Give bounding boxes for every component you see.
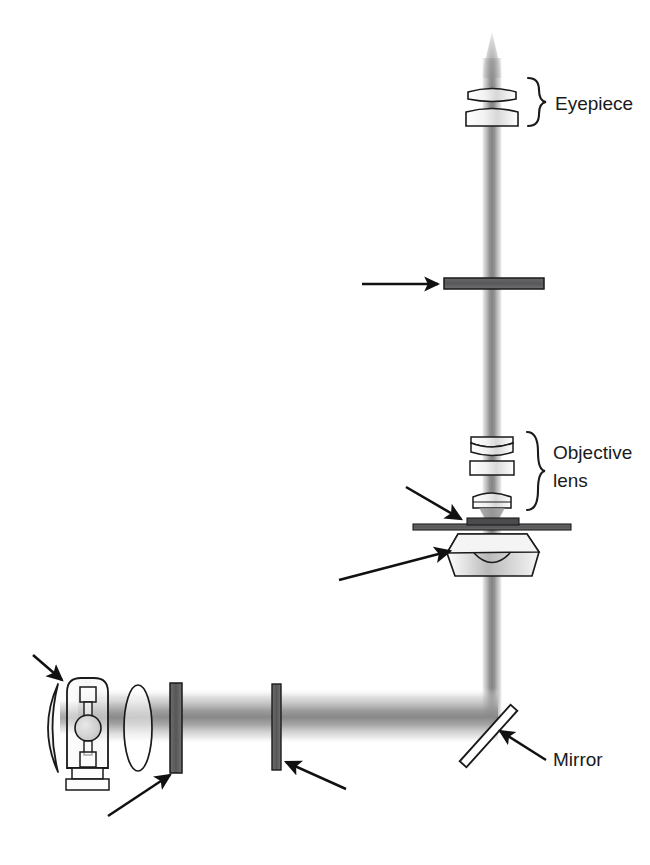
microscope-light-path-diagram: Eyepiece Objective lens (0, 0, 650, 865)
upper-filter (444, 278, 544, 289)
eyepiece-brace (528, 78, 546, 126)
lamp-stem-top (84, 702, 92, 716)
upper-filter-assembly (362, 278, 544, 289)
lamp-base-upper (72, 768, 103, 779)
diagram-canvas: Eyepiece Objective lens (0, 0, 650, 865)
condenser-assembly (339, 534, 539, 580)
source-filter (170, 683, 182, 773)
eyepiece-label: Eyepiece (555, 93, 633, 114)
collector-lens-assembly (124, 685, 152, 771)
objective-label-line2: lens (553, 470, 588, 491)
condenser-top-face (447, 534, 539, 553)
lamp-electrode-top (80, 687, 96, 702)
vertical-beam-top-fade (479, 30, 505, 88)
objective-lens-middle (470, 461, 514, 475)
field-diaphragm (272, 684, 281, 770)
objective-label-line1: Objective (553, 442, 632, 463)
vertical-beam (481, 58, 503, 718)
specimen-sample (467, 518, 519, 525)
objective-brace (527, 432, 545, 510)
eyepiece-upper-lens (468, 89, 516, 102)
arrow-specimen-slide (406, 487, 461, 519)
lamp-electrode-bottom (80, 752, 96, 767)
objective-lens-front (473, 493, 511, 508)
lamp-bulb (75, 715, 101, 741)
arrow-condenser (339, 551, 450, 580)
eyepiece-lower-lens (466, 109, 518, 127)
lamp-base-lower (66, 779, 109, 790)
reflector (48, 684, 58, 772)
light-beam-group (60, 30, 505, 748)
arrow-source-filter (108, 775, 170, 816)
lamp-assembly (66, 678, 109, 790)
mirror-label: Mirror (553, 749, 603, 770)
arrow-reflector (33, 655, 62, 680)
arrow-field-diaphragm (286, 762, 346, 789)
collector-lens (124, 685, 152, 771)
reflector-assembly (33, 655, 62, 772)
arrow-mirror (500, 731, 546, 760)
